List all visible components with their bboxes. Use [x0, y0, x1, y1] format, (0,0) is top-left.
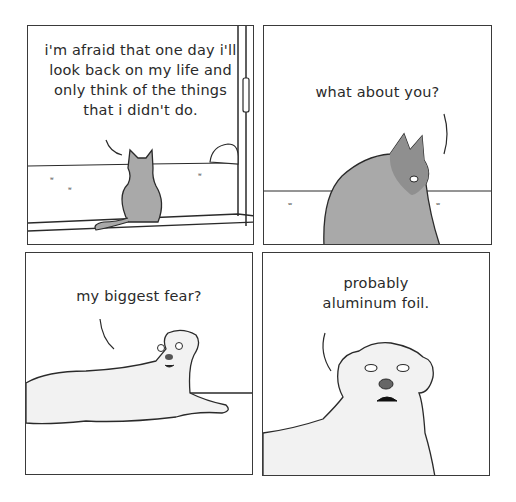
cat-looking-back-illustration: ʷ ʷ: [264, 26, 492, 245]
speech-text: probably aluminum foil.: [263, 273, 489, 313]
speech-text: i'm afraid that one day i'll look back o…: [28, 40, 253, 120]
speech-text: what about you?: [264, 82, 491, 102]
comic-panel-2: ʷ ʷ what about you?: [263, 25, 492, 245]
svg-text:ʷ: ʷ: [288, 201, 292, 210]
comic-panel-4: probably aluminum foil.: [262, 252, 490, 476]
comic-panel-1: ʷ ʷ ʷ i'm afraid that one day i'll look …: [27, 25, 254, 245]
svg-text:ʷ: ʷ: [436, 201, 440, 210]
speech-text: my biggest fear?: [26, 286, 252, 306]
comic-panel-3: my biggest fear?: [25, 252, 253, 475]
svg-text:ʷ: ʷ: [198, 172, 202, 180]
svg-text:ʷ: ʷ: [50, 176, 54, 184]
svg-text:ʷ: ʷ: [68, 186, 72, 194]
